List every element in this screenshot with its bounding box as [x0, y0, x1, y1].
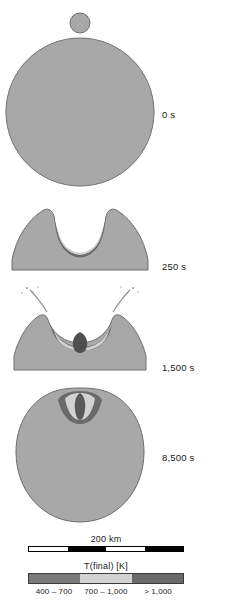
- scale-bar: [28, 546, 184, 552]
- time-label-0-s: 0 s: [162, 109, 226, 120]
- impactor-body: [70, 13, 90, 33]
- panel-250-s-graphic: [0, 198, 160, 278]
- temperature-legend-block: T(final) [K] 400 – 700 700 – 1,000 > 1,0…: [28, 561, 184, 596]
- panel-8500-s: [0, 382, 160, 532]
- scale-bar-block: 200 km: [28, 534, 184, 552]
- panel-0-s-graphic: [0, 8, 160, 198]
- ejecta-particles: [21, 286, 138, 294]
- legend-swatch-700-1000: [80, 574, 131, 583]
- panel-1500-s: [0, 284, 160, 376]
- central-melt-pocket: [73, 332, 87, 353]
- impact-simulation-figure: 0 s 250 s 1,500 s 8,500 s 200 km T(final…: [0, 0, 227, 608]
- legend-title: T(final) [K]: [28, 561, 184, 571]
- time-label-250-s: 250 s: [162, 261, 226, 272]
- scale-bar-segment: [145, 547, 184, 551]
- target-body: [6, 38, 154, 186]
- legend-tick-above-1000: > 1,000: [132, 587, 184, 596]
- scale-bar-segment: [29, 547, 68, 551]
- legend-color-bar: [28, 573, 184, 584]
- legend-swatch-above-1000: [132, 574, 183, 583]
- legend-tick-labels: 400 – 700 700 – 1,000 > 1,000: [28, 587, 184, 596]
- panel-1500-s-graphic: [0, 284, 160, 376]
- time-label-8500-s: 8,500 s: [162, 452, 226, 463]
- legend-tick-700-1000: 700 – 1,000: [80, 587, 132, 596]
- panel-8500-s-graphic: [0, 382, 160, 532]
- legend-swatch-400-700: [29, 574, 80, 583]
- panel-0-s: [0, 8, 160, 198]
- scale-bar-segment: [106, 547, 145, 551]
- scale-bar-label: 200 km: [28, 534, 184, 544]
- target-body-cratered: [12, 209, 148, 270]
- scale-bar-segment: [68, 547, 107, 551]
- legend-tick-400-700: 400 – 700: [28, 587, 80, 596]
- ejecta-plume-left: [30, 290, 47, 312]
- time-label-1500-s: 1,500 s: [162, 362, 226, 373]
- panel-250-s: [0, 198, 160, 278]
